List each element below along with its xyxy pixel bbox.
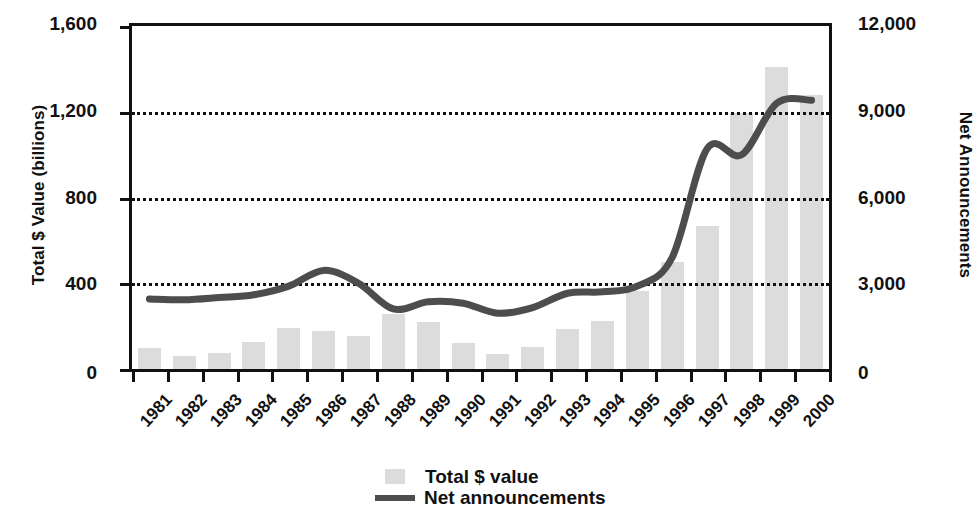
- y-tick-mark-left-800: [120, 198, 132, 201]
- x-tick-mark-16: [690, 369, 693, 382]
- legend-item-net-announcements: Net announcements: [385, 487, 705, 508]
- x-axis-label-1994: 1994: [590, 390, 630, 431]
- y-axis-left-tick-400: 400: [65, 274, 97, 293]
- x-tick-mark-0: [132, 369, 135, 382]
- x-axis-label-1984: 1984: [241, 390, 281, 431]
- legend-label-total-value: Total $ value: [425, 466, 539, 488]
- bar-swatch-icon: [385, 469, 405, 484]
- chart-legend: Total $ value Net announcements: [385, 466, 705, 508]
- x-axis-label-1982: 1982: [171, 390, 211, 431]
- x-tick-mark-13: [585, 369, 588, 382]
- x-axis-labels: 1981198219831984198519861987198819891990…: [0, 390, 962, 460]
- x-tick-mark-7: [376, 369, 379, 382]
- y-axis-right-tick-9000: 9,000: [858, 101, 906, 120]
- x-axis-label-1988: 1988: [381, 390, 421, 431]
- x-tick-mark-19: [794, 369, 797, 382]
- x-tick-mark-6: [341, 369, 344, 382]
- x-tick-mark-4: [271, 369, 274, 382]
- x-tick-mark-20: [829, 369, 832, 382]
- y-axis-left-tick-1600: 1,600: [49, 14, 97, 33]
- line-series-net-announcements: [132, 26, 829, 369]
- y-axis-left-tick-0: 0: [86, 363, 97, 382]
- x-tick-mark-10: [481, 369, 484, 382]
- x-axis-label-1993: 1993: [555, 390, 595, 431]
- plot-area: [129, 23, 832, 372]
- y-axis-right-tick-0: 0: [858, 363, 869, 382]
- y-axis-right-tick-12000: 12,000: [858, 14, 916, 33]
- x-axis-label-1992: 1992: [520, 390, 560, 431]
- x-axis-label-1990: 1990: [450, 390, 490, 431]
- x-tick-mark-14: [620, 369, 623, 382]
- x-axis-label-1987: 1987: [346, 390, 386, 431]
- x-axis-label-1999: 1999: [764, 390, 804, 431]
- x-axis-label-1985: 1985: [276, 390, 316, 431]
- x-tick-mark-18: [759, 369, 762, 382]
- y-axis-left-tick-1200: 1,200: [49, 101, 97, 120]
- x-axis-label-1995: 1995: [625, 390, 665, 431]
- x-tick-mark-12: [550, 369, 553, 382]
- x-tick-mark-1: [167, 369, 170, 382]
- x-axis-label-1998: 1998: [729, 390, 769, 431]
- legend-item-total-value: Total $ value: [385, 466, 705, 487]
- legend-label-net-announcements: Net announcements: [424, 487, 606, 509]
- x-tick-mark-3: [237, 369, 240, 382]
- x-axis-label-1991: 1991: [485, 390, 525, 431]
- y-axis-left-tick-800: 800: [65, 188, 97, 207]
- line-swatch-icon: [375, 495, 415, 501]
- x-axis-label-2000: 2000: [799, 390, 839, 431]
- y-tick-mark-left-0: [120, 369, 132, 372]
- x-axis-label-1997: 1997: [694, 390, 734, 431]
- x-axis-label-1996: 1996: [659, 390, 699, 431]
- y-tick-mark-left-400: [120, 283, 132, 286]
- x-tick-mark-9: [446, 369, 449, 382]
- x-tick-mark-11: [515, 369, 518, 382]
- y-axis-right-tick-6000: 6,000: [858, 188, 906, 207]
- x-tick-mark-15: [655, 369, 658, 382]
- x-axis-label-1983: 1983: [206, 390, 246, 431]
- x-tick-mark-8: [411, 369, 414, 382]
- y-axis-right-tick-3000: 3,000: [858, 274, 906, 293]
- x-tick-mark-17: [724, 369, 727, 382]
- y-axis-left-title: Total $ Value (billions): [29, 60, 49, 330]
- y-tick-mark-left-1200: [120, 112, 132, 115]
- x-axis-label-1989: 1989: [415, 390, 455, 431]
- x-axis-label-1981: 1981: [137, 390, 177, 431]
- y-tick-mark-left-1600: [120, 26, 132, 29]
- y-axis-right-title: Net Announcements: [955, 60, 975, 330]
- x-tick-mark-2: [202, 369, 205, 382]
- x-tick-mark-5: [306, 369, 309, 382]
- x-axis-label-1986: 1986: [311, 390, 351, 431]
